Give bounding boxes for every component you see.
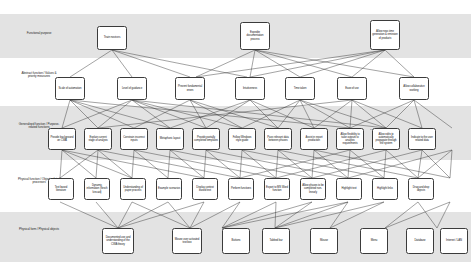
node-highlight-text[interactable]: Highlight text [336, 178, 362, 200]
node-reorder-products[interactable]: Reorder products [370, 128, 372, 130]
node-perform-functions[interactable]: Perform functions [228, 178, 254, 200]
node-constrain-incorrect-inputs[interactable]: Constrain incorrect inputs [120, 128, 148, 150]
node-documented-use-cwa-theory[interactable]: Documented use and understanding of the … [102, 228, 134, 254]
node-display-context-based-text[interactable]: Display context based text [192, 178, 218, 200]
node-metaphoric-layout[interactable]: Metaphoric layout [156, 128, 184, 150]
node-tabbed-bar[interactable]: Tabbed bar [262, 228, 290, 254]
node-drag-and-drop-objects[interactable]: Drag and drop objects [408, 178, 434, 200]
node-allow-edits-to-propagate[interactable]: Allow edits to automatically propagate t… [372, 128, 400, 150]
node-example-scenarios[interactable]: Example scenarios [156, 178, 182, 200]
node-highlight-links[interactable]: Highlight links [372, 178, 398, 200]
node-scale-of-automation[interactable]: Scale of automation [55, 77, 85, 100]
node-dynamic-information[interactable]: Dynamic information (flesch kincaid) [84, 178, 110, 200]
node-internet-lan[interactable]: Internet / LAN [440, 228, 468, 254]
node-buttons[interactable]: Buttons [222, 228, 250, 254]
row-label-functional-purpose: Functional purpose [18, 32, 60, 35]
node-allow-flexibility-to-tailor-outputs[interactable]: Allow flexibility to tailor outputs to a… [336, 128, 364, 150]
node-pass-relevant-data-between-phases[interactable]: Pass relevant data between phases [264, 128, 292, 150]
node-intuitiveness[interactable]: Intuitiveness [235, 77, 265, 100]
node-text-based-literature[interactable]: Text based literature [48, 178, 74, 200]
node-database[interactable]: Database [406, 228, 434, 254]
row-label-physical-form: Physical form / Physical objects [18, 228, 60, 231]
node-mouse[interactable]: Mouse [310, 228, 338, 254]
node-assist-in-report-production[interactable]: Assist in report production [300, 128, 328, 150]
node-ease-of-use[interactable]: Ease of use [337, 77, 367, 100]
node-follow-windows-style-guide[interactable]: Follow Windows style guide [228, 128, 256, 150]
node-menu[interactable]: Menu [360, 228, 388, 254]
node-provide-partially-completed-templates[interactable]: Provide partially completed templates [192, 128, 220, 150]
node-allow-phases-completed-non-linearly[interactable]: Allow phases to be completed non-linearl… [300, 178, 326, 200]
node-allow-near-time-generation[interactable]: Allow near-time generation & emission of… [370, 20, 400, 50]
node-provide-background-on-cwa[interactable]: Provide background on CWA [48, 128, 76, 150]
node-understanding-of-paper-process[interactable]: Understanding of paper process [120, 178, 146, 200]
node-train-novices[interactable]: Train novices [97, 26, 127, 50]
row-label-abstract-function: Abstract function / Values & priority me… [18, 72, 60, 79]
node-level-of-guidance[interactable]: Level of guidance [117, 77, 147, 100]
node-prevent-fundamental-errors[interactable]: Prevent fundamental errors [175, 77, 205, 100]
node-explain-current-stage-of-analysis[interactable]: Explain current stage of analysis [84, 128, 112, 150]
node-export-to-ms-word-function[interactable]: Export to MS Word function [264, 178, 290, 200]
node-time-taken[interactable]: Time taken [285, 77, 315, 100]
node-mouse-over-activated-text-box[interactable]: Mouse over activated text box [172, 228, 202, 254]
abstraction-hierarchy-diagram: Functional purpose Abstract function / V… [0, 0, 471, 276]
node-allow-collaborative-working[interactable]: Allow collaborative working [399, 77, 429, 100]
node-expedite-documentation-process[interactable]: Expedite documentation process [240, 22, 270, 50]
node-indicate-to-the-user-related-data[interactable]: Indicate to the user related data [408, 128, 436, 150]
